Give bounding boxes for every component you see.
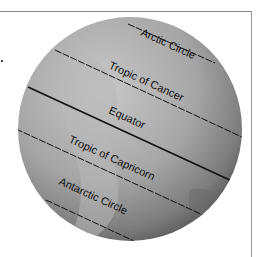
globe-diagram: Arctic Circle Tropic of Cancer Equator T… (0, 0, 258, 257)
